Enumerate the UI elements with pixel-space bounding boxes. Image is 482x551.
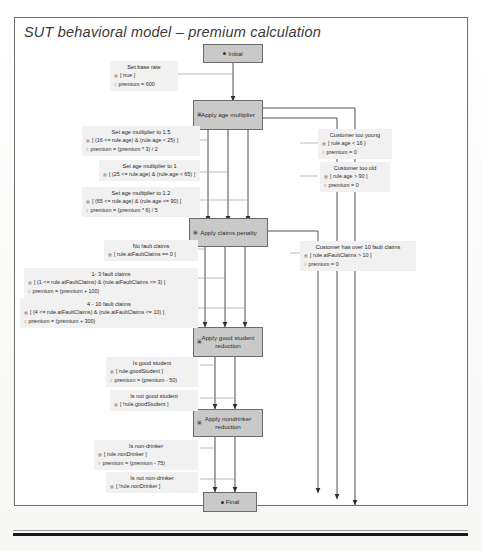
node-apply-nondrinker-reduction[interactable]: ▣ Apply nondrinker reduction bbox=[193, 409, 263, 437]
transition-label-over-10-fault-claims[interactable]: Customer has over 10 fault claims ▦[ rul… bbox=[300, 241, 416, 271]
transition-label-no-fault-claims[interactable]: No fault claims ▦[ rule.atFaultClaims ==… bbox=[104, 240, 198, 261]
transition-name: Is non-drinker bbox=[98, 442, 194, 450]
guard-icon: ▦ bbox=[98, 452, 102, 457]
transition-name: Customer too old bbox=[324, 164, 386, 172]
guard-icon: ▦ bbox=[304, 253, 308, 258]
guard-icon: ▦ bbox=[103, 172, 107, 177]
transition-effect: premium = 0 bbox=[329, 182, 359, 188]
guard-icon: ▦ bbox=[322, 141, 326, 146]
effect-icon: ≡ bbox=[24, 319, 27, 324]
transition-name: Set age multiplier to 1.5 bbox=[86, 128, 196, 136]
scanned-page: SUT behavioral model – premium calculati… bbox=[0, 0, 482, 551]
guard-icon: ▦ bbox=[24, 310, 28, 315]
transition-guard: [ (1 <= rule.atFaultClaims) & (rule.atFa… bbox=[34, 279, 165, 285]
transition-name: Customer too young bbox=[322, 131, 388, 139]
state-badge-icon: ▣ bbox=[197, 340, 202, 345]
transition-label-set-age-multiplier-1-5[interactable]: Set age multiplier to 1.5 ▦[ (16 <= rule… bbox=[82, 126, 200, 156]
transition-effect: premium = (premium + 100) bbox=[33, 288, 100, 294]
transition-name: 4 - 10 fault claims bbox=[24, 300, 194, 308]
effect-icon: ≡ bbox=[114, 82, 117, 87]
transition-effect: premium = 0 bbox=[327, 149, 357, 155]
effect-icon: ≡ bbox=[304, 262, 307, 267]
transition-name: Set base rate bbox=[114, 63, 174, 71]
transition-guard: [ true ] bbox=[120, 72, 135, 78]
state-badge-icon: ▣ bbox=[197, 421, 202, 426]
transition-label-is-non-drinker[interactable]: Is non-drinker ▦[ rule.nonDrinker ] ≡pre… bbox=[94, 440, 198, 470]
guard-icon: ▦ bbox=[114, 402, 118, 407]
transition-label-is-not-non-drinker[interactable]: Is not non-drinker ▦[ !rule.nonDrinker ] bbox=[106, 472, 198, 493]
transition-label-4-10-fault-claims[interactable]: 4 - 10 fault claims ▦[ (4 <= rule.atFaul… bbox=[20, 298, 198, 328]
node-initial[interactable]: Initial bbox=[203, 44, 263, 63]
guard-icon: ▦ bbox=[86, 138, 90, 143]
transition-guard: [ rule.goodStudent ] bbox=[116, 368, 163, 374]
guard-icon: ▦ bbox=[110, 484, 114, 489]
transition-name: Is not non-drinker bbox=[110, 474, 194, 482]
node-apply-age-multiplier-label: Apply age multiplier bbox=[201, 111, 255, 119]
transition-effect: premium = (premium * 6) / 5 bbox=[91, 207, 158, 213]
effect-icon: ≡ bbox=[98, 461, 101, 466]
node-initial-label: Initial bbox=[228, 50, 242, 57]
guard-icon: ▦ bbox=[108, 252, 112, 257]
final-state-dot-icon bbox=[221, 501, 224, 504]
transition-guard: [ rule.nonDrinker ] bbox=[104, 451, 147, 457]
effect-icon: ≡ bbox=[322, 150, 325, 155]
transition-name: Set age multiplier to 1 bbox=[103, 162, 196, 170]
guard-icon: ▦ bbox=[324, 174, 328, 179]
state-badge-icon: ▣ bbox=[193, 230, 198, 235]
effect-icon: ≡ bbox=[110, 378, 113, 383]
transition-name: Is good student bbox=[110, 359, 194, 367]
guard-icon: ▦ bbox=[86, 199, 90, 204]
transition-guard: [ (16 <= rule.age) & (rule.age < 25) ] bbox=[92, 137, 178, 143]
transition-guard: [ !rule.nonDrinker ] bbox=[116, 483, 160, 489]
transition-guard: [ !rule.goodStudent ] bbox=[120, 401, 169, 407]
effect-icon: ≡ bbox=[86, 208, 89, 213]
node-apply-age-multiplier[interactable]: ▣ Apply age multiplier bbox=[193, 100, 263, 130]
effect-icon: ≡ bbox=[86, 147, 89, 152]
transition-label-is-not-good-student[interactable]: Is not good student ▦[ !rule.goodStudent… bbox=[110, 390, 198, 411]
node-apply-good-student-reduction-label: Apply good student reduction bbox=[197, 334, 259, 350]
node-apply-nondrinker-reduction-label: Apply nondrinker reduction bbox=[197, 415, 259, 431]
transition-label-set-age-multiplier-1[interactable]: Set age multiplier to 1 ▦[ (25 <= rule.a… bbox=[99, 160, 200, 181]
transition-name: Customer has over 10 fault claims bbox=[304, 243, 412, 251]
transition-guard: [ (25 <= rule.age) & (rule.age < 65) ] bbox=[109, 171, 195, 177]
transition-effect: premium = 0 bbox=[309, 261, 339, 267]
transition-guard: [ rule.age < 16 ] bbox=[328, 140, 366, 146]
figure-title: SUT behavioral model – premium calculati… bbox=[24, 24, 321, 40]
transition-effect: premium = (premium - 50) bbox=[115, 377, 177, 383]
transition-effect: premium = (premium * 3) / 2 bbox=[91, 146, 158, 152]
transition-name: Set age multiplier to 1.2 bbox=[86, 189, 196, 197]
node-apply-claims-penalty[interactable]: ▣ Apply claims penalty bbox=[189, 218, 268, 247]
node-apply-good-student-reduction[interactable]: ▣ Apply good student reduction bbox=[193, 327, 263, 357]
page-rule-thick bbox=[13, 533, 468, 536]
transition-effect: premium = (premium + 300) bbox=[29, 318, 96, 324]
transition-guard: [ rule.age > 90 ] bbox=[330, 173, 368, 179]
transition-label-set-base-rate[interactable]: Set base rate ▦[ true ] ≡premium = 600 bbox=[110, 61, 178, 91]
guard-icon: ▦ bbox=[110, 369, 114, 374]
transition-guard: [ rule.atFaultClaims > 10 ] bbox=[310, 252, 372, 258]
transition-name: Is not good student bbox=[114, 392, 194, 400]
effect-icon: ≡ bbox=[324, 183, 327, 188]
state-badge-icon: ▣ bbox=[197, 113, 202, 118]
node-final[interactable]: Final bbox=[203, 492, 257, 512]
transition-guard: [ rule.atFaultClaims == 0 ] bbox=[114, 251, 176, 257]
transition-label-1-3-fault-claims[interactable]: 1- 3 fault claims ▦[ (1 <= rule.atFaultC… bbox=[24, 268, 198, 298]
transition-effect: premium = (premium - 75) bbox=[103, 460, 165, 466]
transition-effect: premium = 600 bbox=[119, 81, 155, 87]
guard-icon: ▦ bbox=[28, 280, 32, 285]
node-final-label: Final bbox=[226, 498, 239, 505]
transition-name: No fault claims bbox=[108, 242, 194, 250]
effect-icon: ≡ bbox=[28, 289, 31, 294]
pseudostate-dot-icon bbox=[223, 52, 226, 55]
transition-guard: [ (65 <= rule.age) & (rule.age <= 90) ] bbox=[92, 198, 181, 204]
transition-guard: [ (4 <= rule.atFaultClaims) & (rule.atFa… bbox=[30, 309, 164, 315]
transition-label-is-good-student[interactable]: Is good student ▦[ rule.goodStudent ] ≡p… bbox=[106, 357, 198, 387]
transition-name: 1- 3 fault claims bbox=[28, 270, 194, 278]
transition-label-customer-too-old[interactable]: Customer too old ▦[ rule.age > 90 ] ≡pre… bbox=[320, 162, 390, 192]
node-apply-claims-penalty-label: Apply claims penalty bbox=[200, 229, 256, 237]
guard-icon: ▦ bbox=[114, 73, 118, 78]
transition-label-set-age-multiplier-1-2[interactable]: Set age multiplier to 1.2 ▦[ (65 <= rule… bbox=[82, 187, 200, 217]
transition-label-customer-too-young[interactable]: Customer too young ▦[ rule.age < 16 ] ≡p… bbox=[318, 129, 392, 159]
page-rule-thin bbox=[13, 530, 468, 531]
